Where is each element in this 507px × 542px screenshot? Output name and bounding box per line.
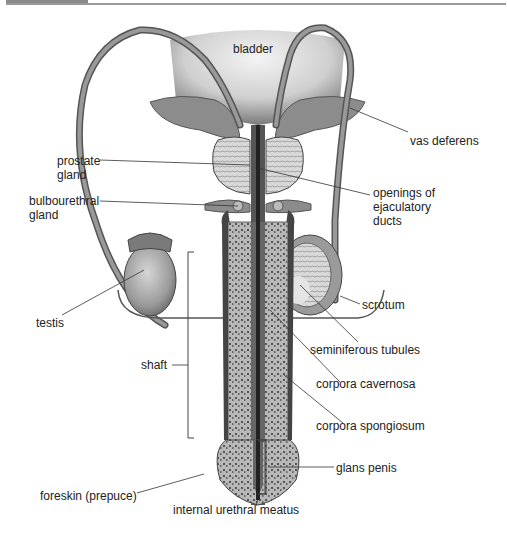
label-internal-urethral-meatus: internal urethral meatus xyxy=(173,503,299,517)
label-foreskin: foreskin (prepuce) xyxy=(40,489,137,503)
anatomy-illustration xyxy=(0,0,507,542)
testis-left-shape xyxy=(124,233,176,316)
label-seminiferous-tubules: seminiferous tubules xyxy=(310,343,420,357)
label-openings-line2: ejaculatory xyxy=(373,200,431,214)
label-prostate-gland-line2: gland xyxy=(57,168,86,182)
label-bladder: bladder xyxy=(233,42,273,56)
label-bulbourethral-line2: gland xyxy=(29,208,58,222)
glans-shape xyxy=(217,440,299,505)
label-bulbourethral-line1: bulbourethral xyxy=(29,194,99,208)
label-prostate-gland-line1: prostate xyxy=(57,154,100,168)
label-vas-deferens: vas deferens xyxy=(410,134,479,148)
label-openings-line1: openings of xyxy=(373,186,435,200)
label-openings-line3: ducts xyxy=(373,214,402,228)
label-corpora-spongiosum: corpora spongiosum xyxy=(316,419,425,433)
label-glans-penis: glans penis xyxy=(336,461,397,475)
label-scrotum: scrotum xyxy=(362,298,405,312)
label-testis: testis xyxy=(36,316,64,330)
shaft-shape xyxy=(222,210,295,444)
label-shaft: shaft xyxy=(141,358,167,372)
label-corpora-cavernosa: corpora cavernosa xyxy=(316,377,415,391)
